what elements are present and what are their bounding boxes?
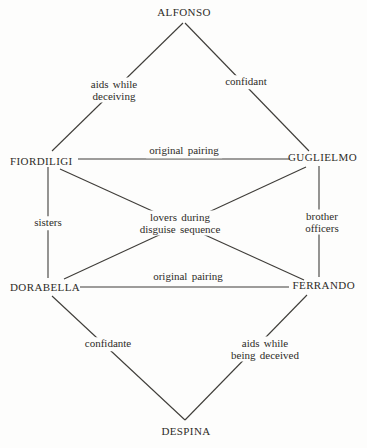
diagram-page: aids while deceiving confidant original … — [0, 0, 367, 448]
node-dorabella: DORABELLA — [10, 281, 80, 293]
node-guglielmo: GUGLIELMO — [288, 151, 357, 163]
edge-label-aids-while-being-deceived: aids while being deceived — [228, 337, 302, 362]
edge-label-brother-officers: brother officers — [302, 210, 341, 235]
node-fiordiligi: FIORDILIGI — [10, 155, 73, 167]
node-ferrando: FERRANDO — [293, 279, 356, 291]
node-despina: DESPINA — [161, 425, 210, 437]
edge-label-confidant: confidant — [222, 75, 270, 89]
edge-label-original-pairing-top: original pairing — [146, 144, 222, 158]
edge-line-dorabella-despina — [52, 296, 185, 420]
edge-label-aids-while-deceiving: aids while deceiving — [88, 78, 140, 103]
edge-label-lovers-during-disguise: lovers during disguise sequence — [137, 211, 224, 236]
node-alfonso: ALFONSO — [157, 6, 211, 18]
edge-label-confidante: confidante — [82, 337, 134, 351]
edge-label-original-pairing-bottom: original pairing — [150, 270, 226, 284]
edge-label-sisters: sisters — [31, 216, 65, 230]
